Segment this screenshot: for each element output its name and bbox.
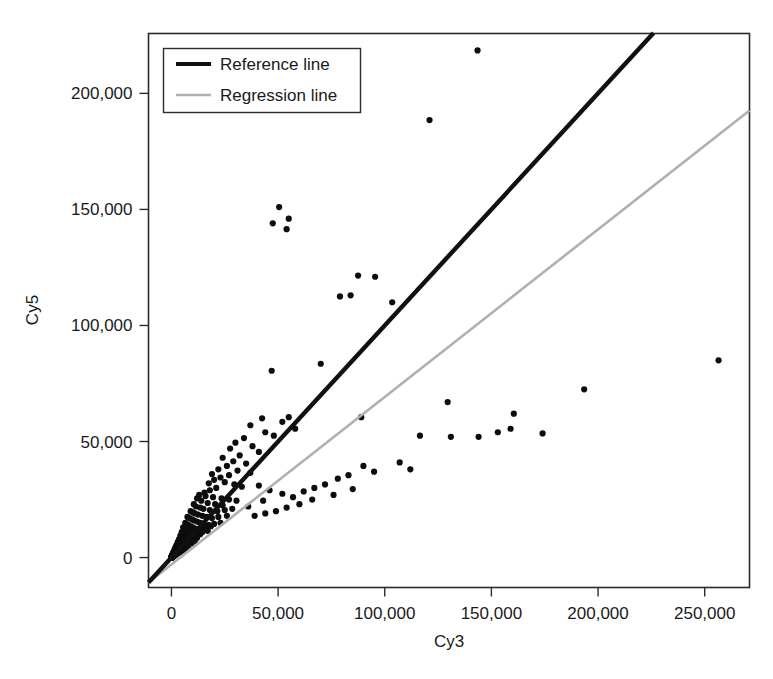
y-tick-label: 100,000	[71, 316, 132, 335]
data-point	[217, 474, 223, 480]
x-tick-label: 200,000	[567, 604, 628, 623]
x-tick-label: 50,000	[252, 604, 304, 623]
data-point	[322, 481, 328, 487]
x-tick-label: 150,000	[461, 604, 522, 623]
data-point	[233, 498, 239, 504]
scatter-plot-figure: 050,000100,000150,000200,000250,000 050,…	[0, 0, 773, 679]
reference-line	[149, 33, 654, 582]
data-point	[290, 494, 296, 500]
data-point	[296, 501, 302, 507]
data-point	[207, 487, 213, 493]
data-point	[273, 508, 279, 514]
data-point	[345, 472, 351, 478]
data-point	[445, 399, 451, 405]
data-point	[715, 357, 721, 363]
data-point	[475, 434, 481, 440]
data-point	[205, 500, 211, 506]
x-axis-title: Cy3	[434, 632, 464, 651]
data-point	[211, 477, 217, 483]
data-point	[539, 430, 545, 436]
plot-frame	[149, 34, 750, 588]
data-point	[397, 459, 403, 465]
data-point	[229, 506, 235, 512]
data-point	[276, 204, 282, 210]
data-point	[206, 480, 212, 486]
data-point	[224, 463, 230, 469]
x-tick-label: 100,000	[354, 604, 415, 623]
data-point	[262, 429, 268, 435]
data-point	[271, 433, 277, 439]
data-point	[247, 422, 253, 428]
data-point	[284, 505, 290, 511]
data-point	[256, 483, 262, 489]
legend-label-reference-line: Reference line	[220, 55, 330, 74]
data-point	[209, 471, 215, 477]
data-point	[249, 443, 255, 449]
x-tick-label: 0	[167, 604, 176, 623]
y-axis-tick-labels: 050,000100,000150,000200,000	[71, 84, 132, 567]
data-point	[507, 426, 513, 432]
data-point	[355, 272, 361, 278]
data-point	[210, 494, 216, 500]
data-point	[230, 458, 236, 464]
data-point	[202, 493, 208, 499]
data-point	[330, 492, 336, 498]
data-point	[581, 386, 587, 392]
data-point	[318, 361, 324, 367]
data-point	[348, 292, 354, 298]
data-point	[270, 220, 276, 226]
data-point-layer	[168, 47, 721, 560]
data-point	[495, 429, 501, 435]
data-point	[256, 449, 262, 455]
y-tick-label: 50,000	[81, 433, 133, 452]
data-point	[417, 433, 423, 439]
data-point	[269, 368, 275, 374]
x-tick-label: 250,000	[674, 604, 735, 623]
data-point	[407, 466, 413, 472]
data-point	[200, 506, 206, 512]
data-point	[279, 491, 285, 497]
data-point	[252, 513, 258, 519]
data-point	[511, 411, 517, 417]
data-point	[220, 455, 226, 461]
y-tick-label: 200,000	[71, 84, 132, 103]
legend: Reference line Regression line	[164, 49, 361, 113]
data-point	[360, 463, 366, 469]
data-point	[426, 117, 432, 123]
data-point	[262, 510, 268, 516]
y-tick-label: 150,000	[71, 200, 132, 219]
y-axis-title: Cy5	[23, 295, 42, 325]
data-point	[259, 415, 265, 421]
data-point	[284, 226, 290, 232]
data-point	[215, 466, 221, 472]
plot-canvas: 050,000100,000150,000200,000250,000 050,…	[0, 0, 773, 679]
data-point	[213, 485, 219, 491]
legend-label-regression-line: Regression line	[220, 86, 337, 105]
data-point	[198, 498, 204, 504]
data-point	[227, 445, 233, 451]
data-point	[286, 414, 292, 420]
data-point	[371, 469, 377, 475]
data-point	[474, 47, 480, 53]
x-axis-ticks	[171, 588, 704, 597]
data-point	[311, 485, 317, 491]
regression-line	[149, 110, 750, 582]
data-point	[215, 514, 221, 520]
y-axis-ticks	[140, 93, 149, 557]
data-point	[241, 435, 247, 441]
y-tick-label: 0	[123, 549, 132, 568]
data-point	[226, 472, 232, 478]
data-point	[337, 293, 343, 299]
data-point	[237, 452, 243, 458]
data-point	[279, 419, 285, 425]
x-axis-tick-labels: 050,000100,000150,000200,000250,000	[167, 604, 736, 623]
data-point	[232, 440, 238, 446]
data-point	[286, 216, 292, 222]
data-point	[301, 488, 307, 494]
data-point	[335, 476, 341, 482]
data-point	[350, 486, 356, 492]
data-point	[260, 498, 266, 504]
data-point	[234, 467, 240, 473]
data-point	[372, 274, 378, 280]
data-point	[309, 496, 315, 502]
